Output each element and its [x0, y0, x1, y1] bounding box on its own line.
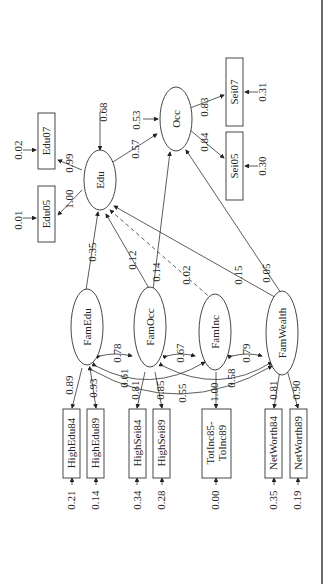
svg-text:HighSei89: HighSei89 [155, 419, 167, 467]
path-famocc-occ-value: 0.14 [150, 262, 162, 282]
path-famocc-edu-value: 0.12 [126, 250, 138, 269]
error-highsei84: 0.34 [131, 490, 143, 510]
svg-text:Sei05: Sei05 [228, 153, 240, 179]
svg-text:HighEdu89: HighEdu89 [89, 417, 101, 468]
svg-text:FamEdu: FamEdu [81, 308, 93, 346]
path-edu-occ-value: 0.57 [129, 139, 141, 159]
svg-text:FamWealth: FamWealth [276, 307, 288, 358]
loading-networth89-value: 0.90 [290, 380, 302, 400]
path-faminc-edu-value: 0.02 [180, 265, 192, 284]
sem-diagram: Edu Occ FamEdu FamOcc FamInc FamWealth E… [0, 0, 324, 584]
svg-text:Sei07: Sei07 [228, 79, 240, 105]
path-famwealth-edu-value: 0.15 [232, 265, 244, 285]
svg-text:FamInc: FamInc [209, 315, 221, 349]
svg-text:HighSei84: HighSei84 [131, 419, 143, 467]
cov-famocc-famwealth-value: 0.58 [225, 368, 237, 388]
svg-text:Edu: Edu [94, 171, 106, 189]
error-highedu84: 0.21 [65, 490, 77, 509]
cov-famedu-famwealth-value: 0.55 [176, 383, 188, 403]
svg-text:NetWorth84: NetWorth84 [267, 415, 279, 470]
error-sei07: 0.31 [256, 82, 268, 101]
cov-famocc-faminc-value: 0.67 [174, 343, 186, 363]
error-edu07: 0.02 [12, 140, 24, 159]
latent-famocc: FamOcc [134, 287, 166, 367]
error-sei05: 0.30 [256, 156, 268, 176]
latent-famwealth: FamWealth [266, 291, 298, 375]
latent-edu: Edu [84, 150, 116, 210]
observed-edu05: Edu05 [38, 186, 55, 242]
path-famwealth-occ-value: 0.05 [260, 263, 272, 283]
observed-edu07: Edu07 [38, 113, 55, 169]
loading-sei07-value: 0.83 [198, 97, 210, 117]
loading-totinc-value: 1.00 [208, 382, 220, 402]
error-highedu89: 0.14 [89, 490, 101, 510]
loading-highsei89-value: 0.85 [154, 380, 166, 400]
loading-edu05-value: 1.00 [63, 189, 75, 209]
svg-text:Occ: Occ [170, 110, 182, 128]
latent-occ: Occ [160, 87, 192, 151]
latent-faminc: FamInc [199, 294, 231, 370]
svg-text:HighEdu84: HighEdu84 [65, 417, 77, 468]
cov-famedu-famocc-value: 0.78 [111, 343, 123, 363]
latent-famedu: FamEdu [71, 289, 103, 365]
observed-highedu84: HighEdu84 [63, 409, 80, 478]
svg-text:NetWorth89: NetWorth89 [292, 415, 304, 470]
loading-highsei84-value: 0.81 [129, 380, 141, 399]
observed-totinc: TotInc85- ToInc89 [202, 409, 231, 478]
loading-sei05-value: 0.84 [198, 132, 210, 152]
residual-edu: 0.68 [97, 102, 109, 122]
svg-text:Edu07: Edu07 [40, 126, 52, 155]
error-networth89: 0.19 [291, 490, 303, 510]
residual-occ: 0.53 [130, 110, 142, 130]
observed-networth89: NetWorth89 [290, 409, 307, 478]
observed-highsei84: HighSei84 [129, 409, 146, 478]
path-famedu-edu-value: 0.35 [86, 242, 98, 262]
observed-highsei89: HighSei89 [153, 409, 170, 478]
svg-text:ToInc89: ToInc89 [216, 424, 228, 461]
observed-highedu89: HighEdu89 [87, 409, 104, 478]
error-highsei89: 0.28 [155, 490, 167, 510]
svg-text:FamOcc: FamOcc [144, 308, 156, 345]
error-totinc: 0.00 [209, 490, 221, 510]
loading-edu07-value: 0.99 [63, 153, 75, 173]
loading-networth84-value: 0.81 [267, 380, 279, 399]
observed-sei05: Sei05 [226, 132, 243, 200]
cov-faminc-famwealth-value: 0.79 [240, 343, 252, 363]
error-networth84: 0.35 [267, 490, 279, 510]
svg-text:TotInc85-: TotInc85- [204, 421, 216, 465]
loading-highedu89-value: 0.93 [87, 378, 99, 398]
loading-highedu84-value: 0.89 [63, 375, 75, 395]
error-edu05: 0.01 [12, 210, 24, 229]
observed-sei07: Sei07 [226, 58, 243, 126]
svg-text:Edu05: Edu05 [40, 199, 52, 228]
observed-networth84: NetWorth84 [265, 409, 282, 478]
